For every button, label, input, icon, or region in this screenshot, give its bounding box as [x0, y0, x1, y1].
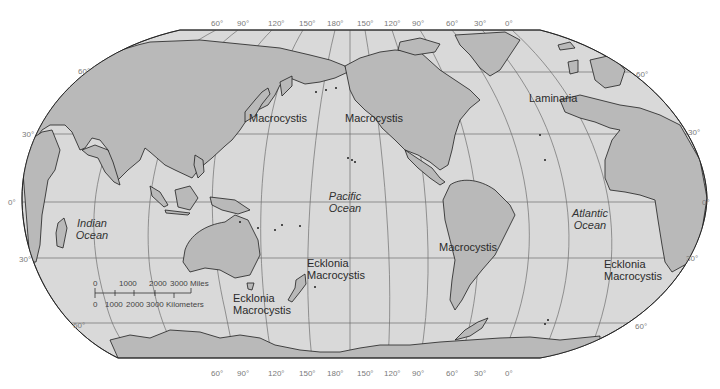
kelp-label-ecklonia-macrocystis-south-africa: EckloniaMacrocystis — [604, 258, 662, 282]
top-longitude-label-0: 60° — [211, 19, 223, 28]
right-latitude-label-1: 30° — [688, 128, 700, 137]
great-britain — [568, 60, 578, 74]
left-latitude-label-4: 60° — [73, 321, 85, 330]
kelp-label-macrocystis-south-america: Macrocystis — [439, 241, 497, 253]
right-latitude-label-0: 60° — [636, 70, 648, 79]
top-longitude-label-1: 90° — [237, 19, 249, 28]
ocean-label-indian: IndianOcean — [76, 217, 108, 241]
top-longitude-label-6: 120° — [384, 19, 401, 28]
left-latitude-label-1: 30° — [22, 130, 34, 139]
bottom-longitude-label-4: 180° — [327, 369, 344, 378]
bottom-longitude-label-2: 120° — [268, 369, 285, 378]
top-longitude-label-8: 60° — [446, 19, 458, 28]
top-longitude-label-7: 90° — [412, 19, 424, 28]
kelp-label-laminaria-north-atlantic: Laminaria — [529, 92, 577, 104]
scale-km-2000: 2000 — [126, 300, 144, 309]
right-latitude-label-4: 60° — [635, 322, 647, 331]
bottom-longitude-label-3: 150° — [299, 369, 316, 378]
scale-miles-1000: 1000 — [119, 279, 137, 288]
top-longitude-label-3: 150° — [299, 19, 316, 28]
ocean-label-pacific: PacificOcean — [329, 190, 361, 214]
left-latitude-label-3: 30° — [19, 255, 31, 264]
right-latitude-label-2: 0° — [702, 198, 710, 207]
scale-miles-2000: 2000 — [149, 279, 167, 288]
top-longitude-label-2: 120° — [268, 19, 285, 28]
top-longitude-label-9: 30° — [474, 19, 486, 28]
kelp-label-ecklonia-macrocystis-australia: EckloniaMacrocystis — [233, 292, 291, 316]
kelp-label-macrocystis-japan: Macrocystis — [249, 112, 307, 124]
ocean-label-atlantic: AtlanticOcean — [572, 207, 608, 231]
left-latitude-label-2: 0° — [8, 198, 16, 207]
bottom-longitude-label-8: 60° — [446, 369, 458, 378]
top-longitude-label-4: 180° — [327, 19, 344, 28]
bottom-longitude-label-0: 60° — [211, 369, 223, 378]
left-latitude-label-0: 60° — [78, 67, 90, 76]
kelp-label-ecklonia-macrocystis-nz: EckloniaMacrocystis — [307, 257, 365, 281]
bottom-longitude-label-7: 90° — [412, 369, 424, 378]
right-latitude-label-3: 30° — [686, 254, 698, 263]
scale-km-3000: 3000 Kilometers — [146, 300, 204, 309]
bottom-longitude-label-6: 120° — [384, 369, 401, 378]
bottom-longitude-label-1: 90° — [237, 369, 249, 378]
bottom-longitude-label-5: 150° — [357, 369, 374, 378]
scale-km-0: 0 — [93, 300, 97, 309]
top-longitude-label-10: 0° — [505, 19, 513, 28]
scale-miles-3000: 3000 Miles — [170, 279, 209, 288]
bottom-longitude-label-10: 0° — [505, 369, 513, 378]
top-longitude-label-5: 150° — [357, 19, 374, 28]
bottom-longitude-label-9: 30° — [474, 369, 486, 378]
scale-km-1000: 1000 — [105, 300, 123, 309]
scale-miles-0: 0 — [93, 279, 97, 288]
kelp-label-macrocystis-northpacific: Macrocystis — [345, 112, 403, 124]
